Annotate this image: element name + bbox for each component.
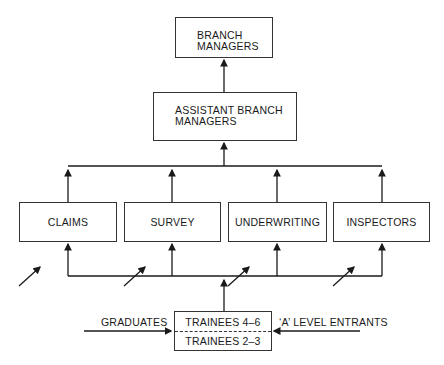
branch-managers-line2: MANAGERS [197, 41, 272, 52]
trainees-divider [175, 331, 271, 332]
assistant-branch-managers-box: ASSISTANT BRANCH MANAGERS [153, 92, 297, 141]
dept-survey-label: SURVEY [150, 216, 194, 228]
dept-claims-label: CLAIMS [48, 216, 88, 228]
graduates-label: GRADUATES [101, 316, 167, 328]
dept-underwriting-label: UNDERWRITING [235, 216, 320, 228]
branch-managers-box: BRANCH MANAGERS [175, 17, 273, 58]
a-level-entrants-label: ‘A’ LEVEL ENTRANTS [279, 316, 388, 328]
trainees-box: TRAINEES 4–6 TRAINEES 2–3 [174, 311, 272, 351]
dept-claims-box: CLAIMS [19, 202, 117, 242]
dept-inspectors-label: INSPECTORS [346, 216, 416, 228]
dept-survey-box: SURVEY [124, 202, 221, 242]
dept-inspectors-box: INSPECTORS [333, 202, 430, 242]
trainees-upper-label: TRAINEES 4–6 [175, 316, 271, 328]
assistant-branch-managers-line2: MANAGERS [175, 116, 296, 127]
dept-underwriting-box: UNDERWRITING [228, 202, 327, 242]
trainees-lower-label: TRAINEES 2–3 [175, 335, 271, 347]
